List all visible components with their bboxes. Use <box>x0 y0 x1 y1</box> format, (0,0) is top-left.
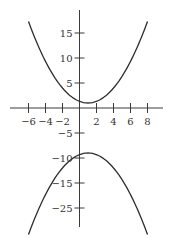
y-tick-label: −5 <box>58 128 73 139</box>
y-tick-label: −25 <box>51 203 72 214</box>
x-tick-label: 8 <box>144 116 150 127</box>
x-tick-label: 6 <box>127 116 133 127</box>
upper-parabola-curve <box>29 22 148 104</box>
chart-canvas: −6−4−22468 15105−5−10−15−25 <box>0 0 169 238</box>
x-tick-label: −6 <box>21 116 36 127</box>
x-axis: −6−4−22468 <box>10 103 163 127</box>
y-tick-label: 15 <box>60 28 73 39</box>
lower-parabola-curve <box>29 153 148 235</box>
x-tick-label: −4 <box>38 116 53 127</box>
y-tick-label: 5 <box>66 78 72 89</box>
x-tick-label: −2 <box>55 116 70 127</box>
x-tick-label: 4 <box>110 116 116 127</box>
x-ticks: −6−4−22468 <box>21 103 151 127</box>
y-tick-label: 10 <box>60 53 73 64</box>
x-tick-label: 2 <box>93 116 99 127</box>
